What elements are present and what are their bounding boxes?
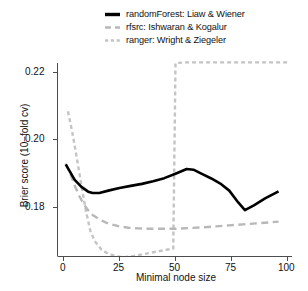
x-ticks xyxy=(64,257,288,262)
plot-area xyxy=(0,0,308,291)
y-axis-title: Brier score (10−fold cv) xyxy=(19,86,30,226)
series-line xyxy=(66,164,279,210)
series-line xyxy=(68,62,288,257)
chart-figure: randomForest: Liaw & Wiener rfsrc: Ishwa… xyxy=(0,0,308,291)
series-layer xyxy=(66,62,288,257)
series-line xyxy=(66,164,279,229)
x-axis-title: Minimal node size xyxy=(63,272,289,283)
y-ticks xyxy=(53,73,58,208)
y-tick-label-022: 0.22 xyxy=(25,66,44,77)
axis-layer xyxy=(53,63,292,261)
